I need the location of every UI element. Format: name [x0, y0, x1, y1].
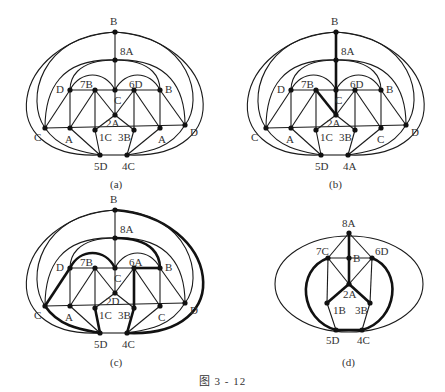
node-label: C	[114, 94, 121, 106]
node-label: A	[158, 133, 166, 145]
panel-c-graph: B 8A C D 7B 6A B 2D C A 1C 3B C D 5D 4C …	[26, 193, 203, 369]
node-label: 1C	[320, 131, 333, 143]
node-label: 6D	[375, 245, 389, 257]
node-label: D	[277, 83, 285, 95]
node-label: 2A	[106, 117, 120, 129]
node-label: 3B	[355, 304, 368, 316]
node-label: A	[65, 311, 73, 323]
node-label: D	[190, 126, 198, 138]
node-label: 6D	[129, 78, 143, 90]
node-label: C	[251, 131, 258, 143]
node-label: 5D	[315, 160, 329, 172]
node-label: B	[165, 83, 172, 95]
node-label: 2A	[343, 288, 357, 300]
panel-label: (a)	[110, 178, 123, 191]
node-label: 7C	[316, 245, 329, 257]
node-label: 4C	[122, 338, 135, 350]
panel-label: (c)	[110, 356, 123, 369]
node-label: 7B	[301, 78, 314, 90]
node-label: D	[411, 126, 419, 138]
node-label: B	[165, 261, 172, 273]
node-label: C	[158, 311, 165, 323]
figure-caption: 图 3 - 12	[0, 372, 445, 388]
node-label: B	[110, 15, 117, 27]
figure-3-12: B 8A C D 7B 6D B 2A C A 1C 3B A D 5D 4C …	[0, 0, 445, 392]
node-label: 4C	[122, 160, 135, 172]
node-label: 5D	[94, 338, 108, 350]
node-label: B	[110, 193, 117, 205]
node-label: 6A	[129, 256, 143, 268]
node-label: 2D	[106, 295, 120, 307]
node-label: 5D	[326, 334, 340, 346]
node-label: 1B	[333, 304, 346, 316]
node-label: B	[353, 252, 360, 264]
node-label: D	[56, 261, 64, 273]
node-label: A	[65, 133, 73, 145]
node-label: 3B	[118, 309, 131, 321]
node-label: 7B	[80, 256, 93, 268]
panel-b-graph: B 8A C D 7B 6D B 2A C A 1C 3B C D 5D 4A …	[247, 15, 424, 191]
node-label: B	[331, 15, 338, 27]
node-label: 4C	[357, 334, 370, 346]
node-label: C	[377, 133, 384, 145]
node-label: 1C	[99, 131, 112, 143]
panel-label: (b)	[329, 178, 342, 191]
node-label: D	[190, 304, 198, 316]
node-label: 1C	[99, 309, 112, 321]
node-label: 3B	[118, 131, 131, 143]
node-label: C	[335, 94, 342, 106]
panel-a-graph: B 8A C D 7B 6D B 2A C A 1C 3B A D 5D 4C …	[26, 15, 203, 191]
node-label: B	[386, 83, 393, 95]
node-label: 8A	[120, 223, 134, 235]
node-label: C	[34, 131, 41, 143]
node-label: C	[114, 272, 121, 284]
node-label: 8A	[341, 45, 355, 57]
node-label: 3B	[339, 131, 352, 143]
panel-label: (d)	[342, 356, 355, 369]
panel-d-graph: 8A 7C B 6D 2A 1B 3B 5D 4C (d)	[275, 217, 423, 369]
node-label: 7B	[80, 78, 93, 90]
node-label: 8A	[342, 217, 356, 229]
node-label: 8A	[120, 45, 134, 57]
node-label: A	[286, 133, 294, 145]
node-label: C	[34, 309, 41, 321]
node-label: 6D	[350, 78, 364, 90]
node-label: 2A	[327, 117, 341, 129]
node-label: 5D	[94, 160, 108, 172]
node-label: D	[56, 83, 64, 95]
node-label: 4A	[343, 160, 357, 172]
